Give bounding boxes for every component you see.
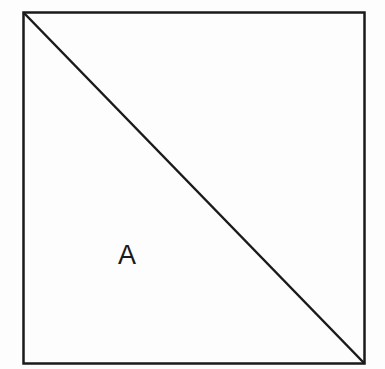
square-diagram <box>0 0 385 369</box>
diagonal-line <box>24 13 365 364</box>
region-label-a: A <box>118 242 136 269</box>
